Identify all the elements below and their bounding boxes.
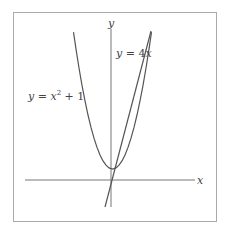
graph-figure: x y y = x2 + 1 y = 4x (0, 0, 231, 229)
y-axis-label: y (107, 17, 115, 30)
x-axis-label: x (197, 174, 204, 187)
line-label: y = 4x (115, 47, 152, 60)
figure-frame (14, 13, 217, 222)
parabola-label: y = x2 + 1 (27, 89, 84, 103)
